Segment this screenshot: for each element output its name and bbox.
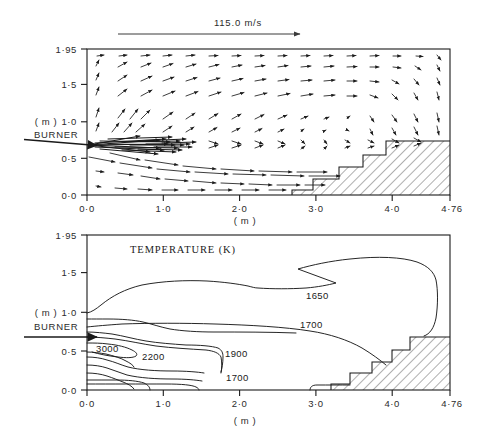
temperature-ytick-1: 1·5: [61, 267, 77, 278]
velocity-obstacle: [292, 141, 450, 195]
velocity-ytick-3: 0·5: [61, 153, 77, 164]
contour-label-1650: 1650: [306, 290, 329, 301]
velocity-xtick-0: 0·0: [79, 203, 95, 214]
temperature-x-axis: 0·0 1·0 2·0 3·0 4·0 4·76 ( m ): [79, 390, 462, 426]
temperature-burner-label: BURNER: [34, 321, 78, 332]
contour-label-2200: 2200: [142, 351, 165, 362]
temperature-xtick-1: 1·0: [156, 398, 172, 409]
contour-lower-2: [87, 365, 202, 381]
velocity-x-axis: 0·0 1·0 2·0 3·0 4·0 4·76 ( m ): [79, 195, 462, 226]
velocity-ytick-0: 1·95: [56, 44, 77, 55]
temperature-contour-labels: 1650 1700 1900 2200 3000 1700: [96, 290, 329, 383]
contour-label-3000: 3000: [96, 343, 119, 354]
velocity-xtick-3: 3·0: [308, 203, 324, 214]
contour-3000-b: [87, 352, 134, 367]
velocity-scale-bar: 115.0 m/s: [118, 17, 300, 34]
temperature-ytick-2: 1·0: [61, 307, 77, 318]
panel-velocity: 1·95 1·5 1·0 0·5 0·0 ( m ) 0·0 1·0 2·0 3…: [24, 44, 463, 227]
temperature-panel-title: TEMPERATURE (K): [130, 244, 236, 256]
temperature-ytick-4: 0·0: [61, 385, 77, 396]
temperature-xtick-2: 2·0: [232, 398, 248, 409]
velocity-xtick-1: 1·0: [156, 203, 172, 214]
velocity-burner-annotation: BURNER: [24, 129, 97, 146]
velocity-ytick-1: 1·5: [61, 79, 77, 90]
contour-label-1900: 1900: [225, 348, 248, 359]
contour-1700-lower-left: [87, 380, 150, 390]
temperature-x-axis-unit: ( m ): [234, 415, 257, 426]
velocity-xtick-2: 2·0: [232, 203, 248, 214]
figure-container: 115.0 m/s 1·95 1·5 1·0 0·5 0·0 ( m ): [0, 0, 477, 438]
velocity-burner-label: BURNER: [34, 129, 78, 140]
velocity-xtick-4: 4·0: [384, 203, 400, 214]
temperature-y-axis-unit: ( m ): [35, 307, 58, 318]
temperature-obstacle: [331, 337, 450, 390]
temperature-burner-annotation: BURNER: [24, 321, 97, 337]
temperature-ytick-0: 1·95: [56, 230, 77, 241]
temperature-xtick-3: 3·0: [308, 398, 324, 409]
contour-1650: [87, 257, 438, 336]
velocity-ytick-2: 1·0: [61, 116, 77, 127]
panel-temperature: TEMPERATURE (K) 1·95 1·5 1·0 0·5 0·0 ( m…: [24, 230, 463, 427]
temperature-xtick-0: 0·0: [79, 398, 95, 409]
velocity-ytick-4: 0·0: [61, 190, 77, 201]
temperature-xtick-4: 4·0: [384, 398, 400, 409]
velocity-y-axis-unit: ( m ): [35, 116, 58, 127]
velocity-y-axis: 1·95 1·5 1·0 0·5 0·0 ( m ): [35, 44, 87, 201]
velocity-x-axis-unit: ( m ): [234, 215, 257, 226]
scale-bar-label: 115.0 m/s: [214, 17, 262, 28]
temperature-xtick-5: 4·76: [441, 398, 462, 409]
velocity-xtick-5: 4·76: [441, 203, 462, 214]
contour-label-1700-lower: 1700: [226, 372, 249, 383]
figure-svg: 115.0 m/s 1·95 1·5 1·0 0·5 0·0 ( m ): [0, 0, 477, 438]
contour-1700-lower-mid: [87, 384, 199, 390]
temperature-y-axis: 1·95 1·5 1·0 0·5 0·0 ( m ): [35, 230, 87, 396]
temperature-ytick-3: 0·5: [61, 346, 77, 357]
velocity-burner-arrow: [24, 140, 97, 146]
contour-label-1700-upper: 1700: [300, 319, 323, 330]
